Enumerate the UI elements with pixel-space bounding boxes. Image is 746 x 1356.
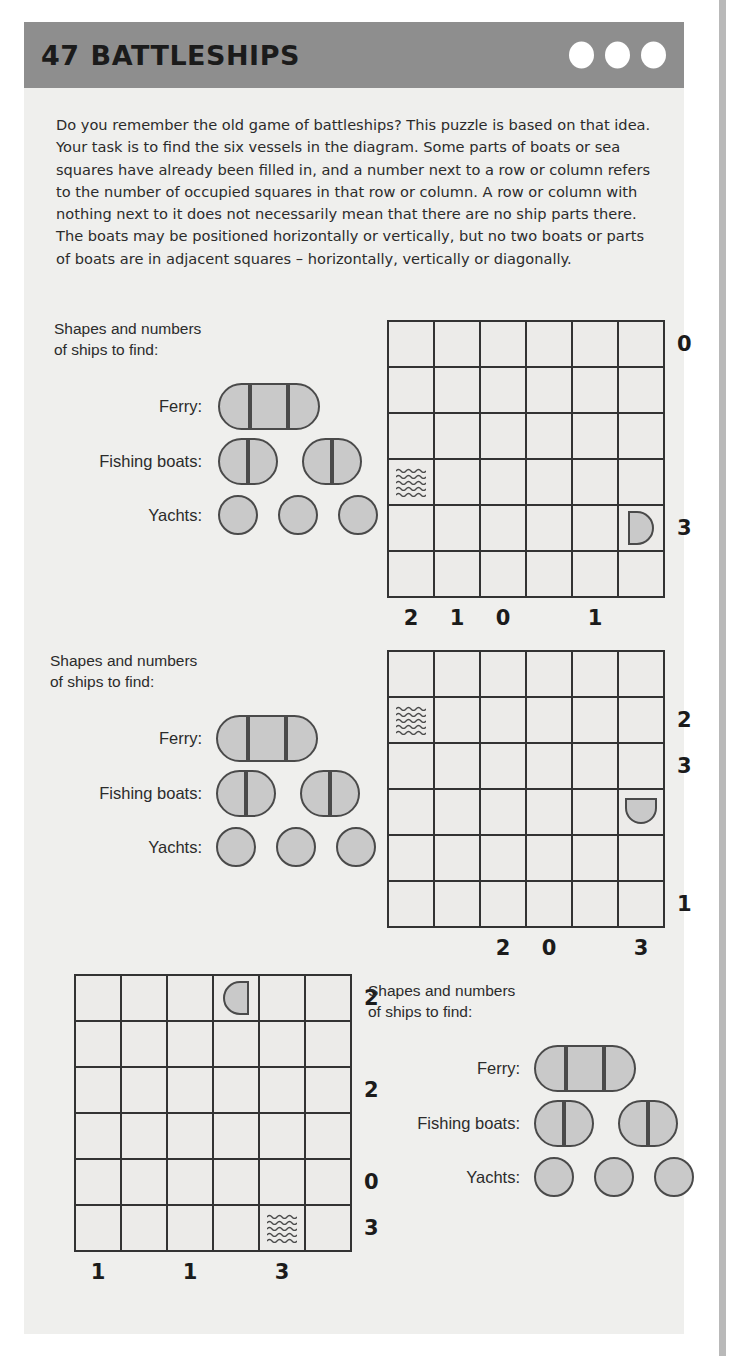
grid-cell[interactable] <box>573 552 617 596</box>
grid-cell[interactable] <box>214 1206 258 1250</box>
grid-cell[interactable] <box>435 744 479 788</box>
grid-cell[interactable] <box>389 790 433 834</box>
grid-cell[interactable] <box>573 790 617 834</box>
grid-cell[interactable] <box>481 882 525 926</box>
puzzle-3-grid[interactable] <box>74 974 352 1252</box>
grid-cell[interactable] <box>76 1114 120 1158</box>
grid-cell[interactable] <box>481 790 525 834</box>
grid-cell[interactable] <box>389 652 433 696</box>
grid-cell[interactable] <box>619 744 663 788</box>
grid-cell[interactable] <box>527 414 571 458</box>
grid-cell[interactable] <box>214 1114 258 1158</box>
legend-row-fishing-boats: Fishing boats: <box>54 434 378 488</box>
grid-cell[interactable] <box>527 552 571 596</box>
grid-cell[interactable] <box>573 836 617 880</box>
grid-cell[interactable] <box>306 1022 350 1066</box>
grid-cell[interactable] <box>573 506 617 550</box>
grid-cell[interactable] <box>619 698 663 742</box>
grid-cell[interactable] <box>527 698 571 742</box>
puzzle-2-grid[interactable] <box>387 650 665 928</box>
grid-cell[interactable] <box>122 976 166 1020</box>
grid-cell[interactable] <box>76 1206 120 1250</box>
grid-cell[interactable] <box>214 1022 258 1066</box>
grid-cell[interactable] <box>306 1206 350 1250</box>
grid-cell[interactable] <box>260 1022 304 1066</box>
grid-cell[interactable] <box>573 414 617 458</box>
grid-cell[interactable] <box>122 1114 166 1158</box>
grid-cell[interactable] <box>122 1068 166 1112</box>
grid-cell[interactable] <box>122 1160 166 1204</box>
grid-cell[interactable] <box>260 1114 304 1158</box>
grid-cell[interactable] <box>76 976 120 1020</box>
grid-cell[interactable] <box>527 790 571 834</box>
grid-cell[interactable] <box>306 1114 350 1158</box>
grid-cell[interactable] <box>168 1206 212 1250</box>
boat-piece-half-bottom <box>625 798 657 824</box>
grid-cell[interactable] <box>168 1068 212 1112</box>
grid-cell[interactable] <box>389 744 433 788</box>
grid-cell[interactable] <box>435 652 479 696</box>
grid-cell[interactable] <box>481 652 525 696</box>
grid-cell[interactable] <box>573 652 617 696</box>
grid-cell[interactable] <box>389 414 433 458</box>
grid-cell[interactable] <box>619 506 663 550</box>
grid-cell[interactable] <box>573 744 617 788</box>
grid-cell[interactable] <box>619 790 663 834</box>
grid-cell[interactable] <box>306 1068 350 1112</box>
grid-cell[interactable] <box>435 414 479 458</box>
grid-cell[interactable] <box>306 976 350 1020</box>
grid-cell[interactable] <box>260 1068 304 1112</box>
grid-cell[interactable] <box>260 976 304 1020</box>
grid-cell[interactable] <box>527 652 571 696</box>
grid-cell[interactable] <box>527 882 571 926</box>
grid-cell[interactable] <box>389 460 433 504</box>
grid-cell[interactable] <box>214 976 258 1020</box>
grid-cell[interactable] <box>435 836 479 880</box>
grid-cell[interactable] <box>619 552 663 596</box>
grid-cell[interactable] <box>435 698 479 742</box>
grid-cell[interactable] <box>168 1160 212 1204</box>
grid-cell[interactable] <box>214 1068 258 1112</box>
grid-cell[interactable] <box>527 836 571 880</box>
grid-cell[interactable] <box>527 744 571 788</box>
grid-cell[interactable] <box>260 1160 304 1204</box>
grid-cell[interactable] <box>481 552 525 596</box>
grid-cell[interactable] <box>168 1022 212 1066</box>
grid-cell[interactable] <box>619 652 663 696</box>
grid-cell[interactable] <box>435 790 479 834</box>
grid-cell[interactable] <box>389 698 433 742</box>
grid-cell[interactable] <box>527 460 571 504</box>
grid-cell[interactable] <box>168 1114 212 1158</box>
grid-cell[interactable] <box>481 414 525 458</box>
grid-cell[interactable] <box>306 1160 350 1204</box>
grid-cell[interactable] <box>435 506 479 550</box>
grid-cell[interactable] <box>389 836 433 880</box>
grid-cell[interactable] <box>122 1022 166 1066</box>
grid-cell[interactable] <box>435 552 479 596</box>
grid-cell[interactable] <box>527 506 571 550</box>
grid-cell[interactable] <box>573 698 617 742</box>
grid-cell[interactable] <box>481 744 525 788</box>
grid-cell[interactable] <box>389 552 433 596</box>
grid-cell[interactable] <box>481 836 525 880</box>
grid-cell[interactable] <box>76 1068 120 1112</box>
grid-cell[interactable] <box>573 460 617 504</box>
grid-cell[interactable] <box>214 1160 258 1204</box>
grid-cell[interactable] <box>389 882 433 926</box>
grid-cell[interactable] <box>76 1022 120 1066</box>
grid-cell[interactable] <box>260 1206 304 1250</box>
grid-cell[interactable] <box>435 882 479 926</box>
grid-cell[interactable] <box>619 414 663 458</box>
grid-cell[interactable] <box>619 460 663 504</box>
grid-cell[interactable] <box>619 882 663 926</box>
grid-cell[interactable] <box>435 460 479 504</box>
grid-cell[interactable] <box>481 698 525 742</box>
grid-cell[interactable] <box>573 882 617 926</box>
grid-cell[interactable] <box>168 976 212 1020</box>
grid-cell[interactable] <box>481 506 525 550</box>
grid-cell[interactable] <box>481 460 525 504</box>
grid-cell[interactable] <box>76 1160 120 1204</box>
grid-cell[interactable] <box>122 1206 166 1250</box>
grid-cell[interactable] <box>619 836 663 880</box>
grid-cell[interactable] <box>389 506 433 550</box>
